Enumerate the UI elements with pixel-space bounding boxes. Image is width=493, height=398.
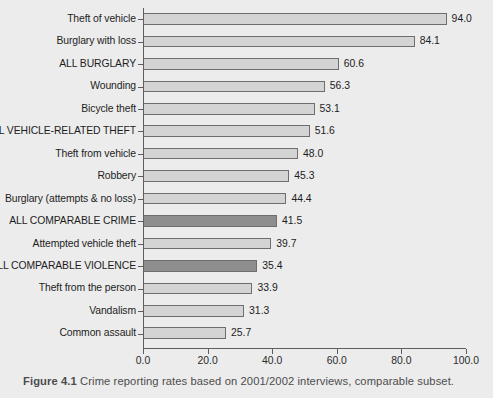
figure-caption: Figure 4.1 Crime reporting rates based o… — [23, 375, 454, 387]
category-label: Burglary with loss — [56, 30, 143, 52]
bar-row: Burglary (attempts & no loss)44.4 — [0, 188, 493, 210]
category-label: ALL BURGLARY — [59, 53, 143, 75]
y-axis-tick — [138, 221, 143, 222]
bar-row: ALL COMPARABLE VIOLENCE35.4 — [0, 255, 493, 277]
y-axis-tick — [138, 244, 143, 245]
y-axis-line — [143, 8, 144, 348]
category-label: Vandalism — [89, 300, 143, 322]
bar-row: Wounding56.3 — [0, 75, 493, 97]
bar-value-label: 31.3 — [244, 300, 269, 322]
x-axis-tick — [337, 349, 338, 354]
y-axis-tick — [138, 289, 143, 290]
bar-row: ALL VEHICLE-RELATED THEFT51.6 — [0, 120, 493, 142]
x-axis-tick — [143, 349, 144, 354]
bar — [143, 283, 252, 295]
bar-row: Burglary with loss84.1 — [0, 30, 493, 52]
y-axis-tick — [138, 334, 143, 335]
category-label: Theft from vehicle — [55, 143, 143, 165]
bar-row: ALL COMPARABLE CRIME41.5 — [0, 210, 493, 232]
bar-value-label: 60.6 — [339, 53, 364, 75]
bar — [143, 13, 447, 25]
x-axis-tick-label: 60.0 — [327, 355, 347, 366]
y-axis-tick — [138, 64, 143, 65]
bar-value-label: 94.0 — [447, 8, 472, 30]
figure-container: Theft of vehicle94.0Burglary with loss84… — [0, 0, 493, 398]
category-label: ALL COMPARABLE VIOLENCE — [0, 255, 143, 277]
figure-number: Figure 4.1 — [23, 375, 77, 387]
bar-value-label: 35.4 — [257, 255, 282, 277]
bar-value-label: 56.3 — [325, 75, 350, 97]
bar-value-label: 44.4 — [286, 188, 311, 210]
y-axis-tick — [138, 311, 143, 312]
bar-row: Robbery45.3 — [0, 165, 493, 187]
x-axis-tick — [401, 349, 402, 354]
x-axis-tick — [272, 349, 273, 354]
y-axis-tick — [138, 87, 143, 88]
bar-value-label: 45.3 — [289, 165, 314, 187]
category-label: Wounding — [90, 75, 143, 97]
figure-caption-text: Crime reporting rates based on 2001/2002… — [80, 375, 454, 387]
x-axis-tick-label: 20.0 — [197, 355, 217, 366]
bar — [143, 81, 325, 93]
category-label: Burglary (attempts & no loss) — [5, 188, 143, 210]
bar — [143, 103, 315, 115]
y-axis-tick — [138, 154, 143, 155]
category-label: ALL VEHICLE-RELATED THEFT — [0, 120, 143, 142]
bar-value-label: 33.9 — [252, 277, 277, 299]
bar — [143, 305, 244, 317]
x-axis-tick-label: 80.0 — [391, 355, 411, 366]
category-label: Robbery — [97, 165, 143, 187]
y-axis-tick — [138, 131, 143, 132]
bar-row: Common assault25.7 — [0, 322, 493, 344]
y-axis-tick — [138, 19, 143, 20]
bar — [143, 260, 257, 272]
category-label: Common assault — [59, 322, 143, 344]
x-axis-tick — [208, 349, 209, 354]
bar — [143, 193, 286, 205]
bar — [143, 36, 415, 48]
y-axis-tick — [138, 109, 143, 110]
bar-row: Bicycle theft53.1 — [0, 98, 493, 120]
bar-value-label: 25.7 — [226, 322, 251, 344]
category-label: Attempted vehicle theft — [33, 233, 143, 255]
x-axis-tick-label: 40.0 — [262, 355, 282, 366]
category-label: Bicycle theft — [81, 98, 143, 120]
bar-row: Vandalism31.3 — [0, 300, 493, 322]
bar-value-label: 51.6 — [310, 120, 335, 142]
bar-value-label: 39.7 — [271, 233, 296, 255]
bar — [143, 170, 289, 182]
y-axis-tick — [138, 199, 143, 200]
bar-value-label: 53.1 — [315, 98, 340, 120]
bar — [143, 58, 339, 70]
x-axis-tick-label: 100.0 — [453, 355, 479, 366]
bar — [143, 148, 298, 160]
category-label: Theft from the person — [39, 277, 143, 299]
bar-value-label: 48.0 — [298, 143, 323, 165]
x-axis-tick — [466, 349, 467, 354]
y-axis-tick — [138, 42, 143, 43]
y-axis-tick — [138, 266, 143, 267]
bar-chart-plot-area: Theft of vehicle94.0Burglary with loss84… — [0, 0, 493, 360]
bar-value-label: 84.1 — [415, 30, 440, 52]
y-axis-tick — [138, 176, 143, 177]
bar — [143, 238, 271, 250]
bar-row: Attempted vehicle theft39.7 — [0, 233, 493, 255]
bar-row: ALL BURGLARY60.6 — [0, 53, 493, 75]
bar-row: Theft of vehicle94.0 — [0, 8, 493, 30]
x-axis-line — [143, 348, 466, 349]
category-label: ALL COMPARABLE CRIME — [9, 210, 143, 232]
bar — [143, 215, 277, 227]
bar — [143, 327, 226, 339]
bar-row: Theft from the person33.9 — [0, 277, 493, 299]
category-label: Theft of vehicle — [67, 8, 143, 30]
bar-row: Theft from vehicle48.0 — [0, 143, 493, 165]
x-axis-tick-label: 0.0 — [136, 355, 150, 366]
bar-value-label: 41.5 — [277, 210, 302, 232]
bar — [143, 125, 310, 137]
